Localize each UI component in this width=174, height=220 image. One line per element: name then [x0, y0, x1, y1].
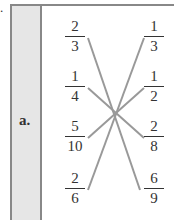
right-fraction-3: 28: [142, 118, 166, 155]
left-fraction-2: 14: [63, 68, 87, 105]
right-fraction-4: 69: [142, 170, 166, 207]
right-fraction-2: 12: [142, 68, 166, 105]
left-fraction-3: 510: [63, 118, 87, 155]
right-fraction-1: 13: [142, 18, 166, 55]
left-fraction-4: 26: [63, 170, 87, 207]
left-fraction-1: 23: [63, 18, 87, 55]
